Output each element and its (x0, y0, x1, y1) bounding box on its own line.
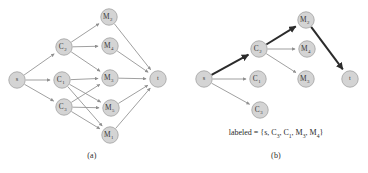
edge-s-to-C3 (212, 83, 250, 104)
edge-C1-to-M3 (71, 78, 99, 79)
labeled-item-C3: C3 (271, 128, 279, 137)
edge-M3-to-t (119, 78, 147, 79)
edge-M4-to-t (117, 51, 148, 72)
node-C1[interactable]: C1 (250, 71, 266, 87)
edge-C2-to-M4 (73, 46, 99, 47)
node-circle-C3 (56, 99, 72, 115)
node-circle-C1 (250, 71, 266, 87)
node-C3[interactable]: C3 (56, 99, 72, 115)
node-s[interactable]: s (196, 71, 212, 87)
node-circle-M4 (299, 41, 315, 57)
node-circle-M1 (102, 127, 118, 143)
figure-root: sC2C1C3M2M4M3M5M1t (a) sC2C1C3M2M4M3t la… (0, 0, 368, 173)
node-M4[interactable]: M4 (102, 38, 118, 54)
node-circle-s (196, 71, 212, 87)
node-circle-M3 (298, 71, 314, 87)
edge-C2-to-M2 (71, 24, 99, 43)
edge-C2-to-M2 (266, 26, 295, 44)
node-circle-C1 (54, 72, 70, 88)
edge-layer (212, 26, 343, 104)
node-circle-M3 (102, 70, 118, 86)
edge-s-to-C2 (212, 55, 249, 75)
edge-M2-to-t (311, 27, 343, 69)
edge-C2-to-M3 (266, 54, 296, 73)
node-C1[interactable]: C1 (54, 72, 70, 88)
node-t[interactable]: t (150, 71, 166, 87)
node-circle-t (150, 71, 166, 87)
node-M4[interactable]: M4 (299, 41, 315, 57)
node-circle-s (9, 72, 25, 88)
node-circle-C2 (56, 39, 72, 55)
labeled-item-C1: C1 (283, 128, 291, 137)
labeled-item-M4: M4 (310, 128, 320, 137)
node-layer: sC2C1C3M2M4M3M5M1t (9, 9, 166, 143)
node-t[interactable]: t (342, 71, 358, 87)
edge-C3-to-M5 (73, 107, 100, 108)
node-circle-M2 (101, 9, 117, 25)
node-circle-C3 (252, 102, 268, 118)
graph-diagram-b: sC2C1C3M2M4M3t (184, 0, 368, 125)
node-circle-M2 (298, 12, 314, 28)
node-C2[interactable]: C2 (56, 39, 72, 55)
panel-a: sC2C1C3M2M4M3M5M1t (a) (0, 0, 184, 173)
labeled-set-text: labeled = {s, C3, C1, M3, M4} (184, 128, 368, 139)
labeled-item-s: s (264, 128, 267, 137)
edge-C2-to-M3 (71, 52, 100, 72)
node-C2[interactable]: C2 (251, 41, 267, 57)
edge-layer (24, 24, 151, 129)
node-circle-M5 (103, 100, 119, 116)
edge-s-to-C3 (24, 84, 53, 101)
labeled-item-M3: M3 (296, 128, 306, 137)
node-M3[interactable]: M3 (298, 71, 314, 87)
node-M2[interactable]: M2 (101, 9, 117, 25)
node-M3[interactable]: M3 (102, 70, 118, 86)
graph-diagram-a: sC2C1C3M2M4M3M5M1t (0, 0, 184, 150)
node-C3[interactable]: C3 (252, 102, 268, 118)
node-circle-t (342, 71, 358, 87)
node-M2[interactable]: M2 (298, 12, 314, 28)
panel-a-caption: (a) (0, 151, 184, 160)
node-M5[interactable]: M5 (103, 100, 119, 116)
node-circle-M4 (102, 38, 118, 54)
node-layer: sC2C1C3M2M4M3t (196, 12, 358, 118)
edge-M5-to-t (118, 85, 148, 103)
edge-s-to-C2 (24, 54, 54, 75)
edge-C3-to-M1 (71, 111, 100, 128)
panel-b: sC2C1C3M2M4M3t labeled = {s, C3, C1, M3,… (184, 0, 368, 173)
node-M1[interactable]: M1 (102, 127, 118, 143)
node-s[interactable]: s (9, 72, 25, 88)
node-circle-C2 (251, 41, 267, 57)
edge-M2-to-t (114, 24, 150, 70)
panel-b-caption: (b) (184, 151, 368, 160)
